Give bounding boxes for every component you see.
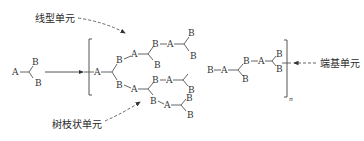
atom-b-terminal: B [242, 74, 249, 84]
atom-b: B [243, 56, 250, 66]
atom-b-terminal: B [190, 51, 197, 61]
monomer-atom-b2: B [35, 78, 42, 88]
atom-b-terminal: B [187, 110, 194, 120]
monomer-atom-b1: B [32, 57, 39, 67]
atom-b: B [150, 96, 157, 106]
atom-a: A [220, 65, 228, 75]
terminal-unit-label: 端基单元 [320, 57, 360, 69]
atom-b-terminal: B [188, 28, 195, 38]
atom-b-terminal: B [276, 49, 283, 59]
atom-b-terminal: B [154, 60, 161, 70]
repeat-subscript-n: n [289, 95, 293, 102]
monomer-atom-a: A [11, 67, 19, 77]
hyperbranched-polymer-diagram: A B B A B A B B A B B B A B A B B A B [0, 0, 364, 141]
atom-a: A [166, 39, 174, 49]
linear-unit-pointer-icon [78, 18, 125, 33]
right-bracket [284, 40, 287, 97]
atom-b-terminal: B [276, 64, 283, 74]
atom-b-terminal: B [186, 93, 193, 103]
atom-a: A [163, 100, 171, 110]
dendritic-unit-pointer-icon [105, 102, 140, 121]
linear-unit-label: 线型单元 [35, 12, 75, 24]
atom-b: B [152, 75, 159, 85]
atom-b: B [116, 55, 123, 65]
atom-b: B [152, 39, 159, 49]
atom-b: B [207, 65, 214, 75]
atom-b: B [116, 80, 123, 90]
atom-a: A [165, 75, 173, 85]
atom-a-linear: A [130, 49, 138, 59]
left-bracket [89, 39, 92, 95]
atom-a: A [257, 56, 265, 66]
atom-a: A [130, 84, 138, 94]
core-atom-a: A [93, 67, 101, 77]
dendritic-unit-label: 树枝状单元 [52, 118, 102, 130]
monomer-ab2: A B B [11, 57, 42, 88]
